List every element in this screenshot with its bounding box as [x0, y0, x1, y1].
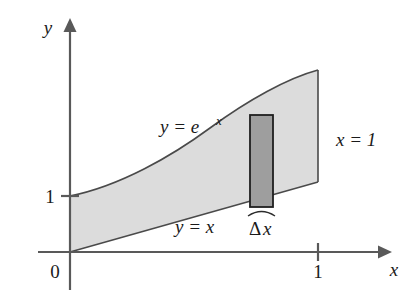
delta-x-label-delta: Δ [249, 218, 261, 239]
x-tick-label-1: 1 [313, 261, 323, 282]
y-tick-label-1: 1 [45, 186, 55, 207]
delta-x-label: Δ x [249, 218, 272, 239]
x-axis-label: x [389, 259, 399, 280]
delta-x-brace [248, 212, 275, 217]
representative-rectangle [250, 115, 273, 207]
math-diagram: y x 0 1 1 y = e x y = x x = 1 Δ x [0, 0, 414, 306]
lower-line-label: y = x [173, 216, 215, 237]
origin-label: 0 [50, 261, 60, 282]
upper-curve-label-base: y = e [158, 116, 199, 137]
y-axis-arrowhead [64, 18, 77, 32]
right-boundary-label: x = 1 [335, 129, 376, 150]
upper-curve-label-exponent: x [215, 113, 222, 128]
y-axis-label: y [42, 17, 53, 38]
strip-fill [250, 115, 273, 207]
x-axis-arrowhead [378, 246, 392, 259]
figure-container: y x 0 1 1 y = e x y = x x = 1 Δ x [0, 0, 414, 306]
delta-x-label-variable: x [262, 218, 272, 239]
